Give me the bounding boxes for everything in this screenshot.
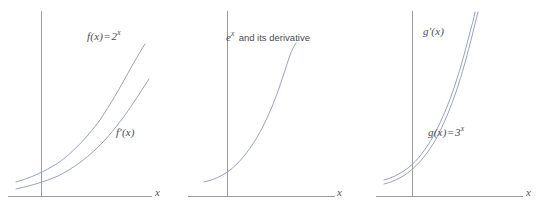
label-e-and-derivative: exand its derivative	[226, 29, 310, 43]
label-e-rest: and its derivative	[239, 32, 310, 43]
label-f-exp: x	[117, 28, 121, 37]
label-g-prime: g′(x)	[423, 25, 444, 37]
label-g-exp: x	[461, 124, 465, 133]
label-g-of-x: g(x)=3x	[428, 124, 464, 138]
curve-g-prime	[384, 12, 475, 180]
label-e-exp: x	[231, 29, 235, 38]
panel-base-e: exand its derivative x	[180, 0, 360, 210]
panel-base-3: g′(x) g(x)=3x x	[360, 0, 542, 210]
x-axis-label: x	[526, 186, 531, 198]
label-g-eq: =	[447, 126, 455, 138]
label-fp-arg: (x)	[122, 126, 135, 138]
label-f-of-x: f(x)=2x	[87, 28, 121, 42]
curve-f	[16, 44, 145, 182]
label-f-arg: (x)	[90, 30, 103, 42]
label-f-prime: f′(x)	[116, 126, 135, 138]
curve-e-and-derivative	[204, 43, 296, 182]
x-axis-label: x	[337, 186, 342, 198]
label-g-arg: (x)	[434, 126, 447, 138]
x-axis-label: x	[155, 186, 160, 198]
exponential-derivative-figure: f(x)=2x f′(x) x exand its derivative x	[0, 0, 542, 210]
panel-base-3-plot	[360, 0, 542, 210]
label-gp-arg: (x)	[431, 25, 444, 37]
curve-g	[384, 12, 478, 184]
panel-base-2: f(x)=2x f′(x) x	[0, 0, 180, 210]
